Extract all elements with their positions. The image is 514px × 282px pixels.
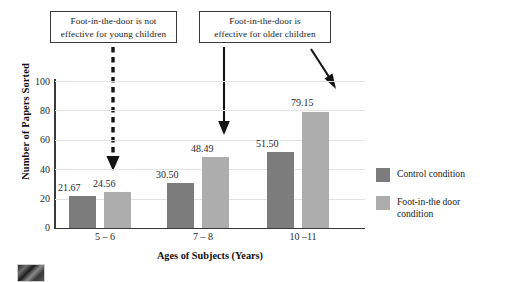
legend-item-control: Control condition — [376, 168, 465, 182]
y-axis-ticks: 100 80 60 40 20 0 — [22, 0, 50, 282]
y-tick-80: 80 — [24, 105, 50, 116]
x-tick-7-8: 7 – 8 — [167, 231, 239, 242]
legend-swatch-fitd-icon — [376, 196, 390, 210]
x-axis-title: Ages of Subjects (Years) — [55, 250, 365, 261]
annotation-older-line2: effective for older children — [204, 28, 326, 41]
annotation-older-line1: Foot-in-the-door is — [204, 15, 326, 28]
chart-figure: Foot-in-the-door is not effective for yo… — [0, 0, 514, 282]
legend-label-control: Control condition — [397, 168, 465, 180]
bar-label-control-10-11: 51.50 — [256, 138, 279, 149]
y-tick-40: 40 — [24, 164, 50, 175]
annotation-young-line1: Foot-in-the-door is not — [55, 15, 172, 28]
legend-label-fitd-line2: condition — [397, 208, 460, 220]
bar-label-control-5-6: 21.67 — [58, 182, 81, 193]
bar-label-fitd-7-8: 48.49 — [191, 143, 214, 154]
bar-label-fitd-5-6: 24.56 — [93, 178, 116, 189]
annotation-young-line2: effective for young children — [55, 28, 172, 41]
y-tick-20: 20 — [24, 193, 50, 204]
plot-area: 21.67 24.56 30.50 48.49 51.50 79.15 — [55, 81, 365, 228]
annotation-box-older-children: Foot-in-the-door is effective for older … — [199, 11, 331, 43]
annotation-box-young-children: Foot-in-the-door is not effective for yo… — [50, 11, 177, 43]
bar-label-fitd-10-11: 79.15 — [291, 97, 314, 108]
bar-label-control-7-8: 30.50 — [156, 169, 179, 180]
bar-fitd-7-8 — [202, 157, 229, 228]
bar-control-7-8 — [167, 183, 194, 228]
caption-thumbnail-image — [17, 264, 45, 282]
legend-item-fitd: Foot-in-the door condition — [376, 196, 460, 221]
bar-fitd-5-6 — [104, 192, 131, 228]
gridline-100 — [55, 81, 365, 82]
bar-fitd-10-11 — [302, 112, 329, 228]
y-tick-100: 100 — [24, 76, 50, 87]
x-tick-10-11: 10 –11 — [267, 231, 339, 242]
y-tick-60: 60 — [24, 134, 50, 145]
bar-control-10-11 — [267, 152, 294, 228]
legend-label-fitd-line1: Foot-in-the door — [397, 196, 460, 208]
y-tick-0: 0 — [24, 222, 50, 233]
legend-label-fitd-wrap: Foot-in-the door condition — [397, 196, 460, 221]
bar-control-5-6 — [69, 196, 96, 228]
legend-label-control-wrap: Control condition — [397, 168, 465, 180]
x-tick-5-6: 5 – 6 — [69, 231, 141, 242]
legend-swatch-control-icon — [376, 168, 390, 182]
